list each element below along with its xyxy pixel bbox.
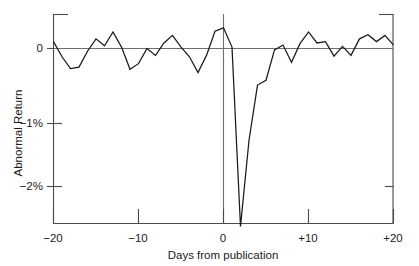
x-tick-label-0: 0	[220, 232, 226, 244]
y-tick-label-minus2: −2%	[20, 180, 43, 192]
x-tick-label-plus10: +10	[298, 232, 318, 244]
y-tick-label-0: 0	[37, 42, 43, 54]
y-axis-title: Abnormal Return	[12, 90, 24, 177]
chart-background	[0, 0, 419, 266]
chart-figure: 0 −1% −2% −20 −10 0 +10 +20 Days from pu…	[0, 0, 419, 266]
x-tick-label-plus20: +20	[383, 232, 403, 244]
x-axis-title: Days from publication	[168, 249, 279, 261]
x-tick-label-minus20: −20	[43, 232, 63, 244]
abnormal-return-line-chart: 0 −1% −2% −20 −10 0 +10 +20 Days from pu…	[0, 0, 419, 266]
x-tick-label-minus10: −10	[128, 232, 148, 244]
